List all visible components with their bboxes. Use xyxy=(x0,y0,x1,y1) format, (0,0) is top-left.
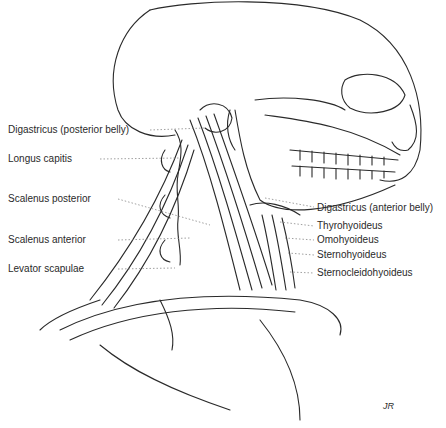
label-digastricus-posterior: Digastricus (posterior belly) xyxy=(8,124,129,136)
anatomy-figure: Digastricus (posterior belly) Longus cap… xyxy=(0,0,446,428)
neck-illustration xyxy=(0,0,446,428)
label-longus-capitis: Longus capitis xyxy=(8,153,72,165)
label-digastricus-anterior: Digastricus (anterior belly) xyxy=(317,202,433,214)
label-sternocleidohyoideus: Sternocleidohyoideus xyxy=(317,267,413,279)
label-omohyoideus: Omohyoideus xyxy=(317,234,379,246)
label-levator-scapulae: Levator scapulae xyxy=(8,263,84,275)
artist-signature: JR xyxy=(383,400,394,412)
label-scalenus-anterior: Scalenus anterior xyxy=(8,234,86,246)
label-scalenus-posterior: Scalenus posterior xyxy=(8,193,91,205)
label-sternohyoideus: Sternohyoideus xyxy=(317,249,387,261)
label-thyrohyoideus: Thyrohyoideus xyxy=(317,220,383,232)
